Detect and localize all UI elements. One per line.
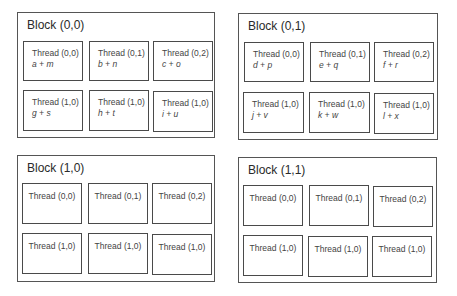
thread-0-1: Thread (0,1) (309, 185, 369, 226)
thread-operation: l + x (383, 111, 399, 121)
thread-operation: i + u (162, 109, 178, 119)
thread-0-0: Thread (0,0) (243, 185, 303, 226)
thread-label: Thread (1,0) (153, 242, 211, 252)
thread-label: Thread (1,0) (309, 244, 367, 254)
thread-0-0: Thread (0,0) (22, 183, 82, 224)
block-title: Block (1,0) (27, 161, 84, 175)
thread-operation: g + s (32, 108, 51, 118)
thread-operation: h + t (98, 108, 115, 118)
thread-operation: d + p (253, 60, 272, 70)
thread-label: Thread (1,0) (244, 243, 302, 253)
thread-1-2: Thread (1,0) i + u (153, 91, 213, 132)
block-title: Block (0,1) (248, 19, 305, 33)
thread-1-2: Thread (1,0) (372, 236, 432, 277)
thread-label: Thread (1,0) (373, 244, 431, 254)
thread-0-1: Thread (0,1) e + q (310, 42, 370, 82)
thread-label: Thread (1,0) (383, 100, 430, 110)
thread-operation: a + m (32, 59, 54, 69)
thread-label: Thread (0,1) (98, 48, 145, 58)
block-title: Block (0,0) (27, 18, 84, 32)
thread-label: Thread (0,1) (310, 193, 368, 203)
thread-operation: k + w (318, 110, 338, 120)
thread-1-2: Thread (1,0) (152, 234, 212, 275)
thread-label: Thread (0,0) (32, 48, 79, 58)
thread-label: Thread (1,0) (98, 97, 145, 107)
block-title: Block (1,1) (248, 163, 305, 177)
thread-label: Thread (0,2) (162, 48, 209, 58)
block-0-0: Block (0,0) Thread (0,0) a + m Thread (0… (17, 12, 215, 138)
thread-0-1: Thread (0,1) (88, 183, 148, 224)
thread-1-1: Thread (1,0) h + t (89, 90, 149, 131)
thread-label: Thread (0,1) (89, 191, 147, 201)
block-0-1: Block (0,1) Thread (0,0) d + p Thread (0… (238, 13, 438, 140)
thread-1-2: Thread (1,0) l + x (374, 93, 434, 134)
thread-0-2: Thread (0,2) f + r (374, 42, 434, 82)
block-1-1: Block (1,1) Thread (0,0) Thread (0,1) Th… (238, 157, 437, 283)
thread-label: Thread (1,0) (318, 99, 365, 109)
thread-1-0: Thread (1,0) j + v (243, 92, 304, 133)
thread-operation: b + n (98, 59, 117, 69)
thread-operation: f + r (383, 60, 398, 70)
thread-label: Thread (0,2) (374, 194, 432, 204)
thread-label: Thread (1,0) (89, 241, 147, 251)
thread-label: Thread (0,0) (244, 193, 302, 203)
thread-0-2: Thread (0,2) (152, 183, 212, 224)
thread-label: Thread (1,0) (162, 98, 209, 108)
thread-label: Thread (0,1) (319, 49, 366, 59)
thread-0-2: Thread (0,2) (373, 186, 433, 227)
thread-0-0: Thread (0,0) a + m (23, 41, 83, 81)
thread-label: Thread (0,2) (383, 49, 430, 59)
thread-1-1: Thread (1,0) (88, 233, 148, 274)
thread-label: Thread (0,2) (153, 191, 211, 201)
thread-operation: e + q (319, 60, 338, 70)
thread-0-2: Thread (0,2) c + o (153, 41, 213, 81)
thread-1-0: Thread (1,0) g + s (23, 90, 83, 131)
thread-label: Thread (1,0) (23, 241, 81, 251)
thread-1-0: Thread (1,0) (243, 235, 303, 276)
thread-label: Thread (1,0) (252, 99, 299, 109)
thread-operation: j + v (252, 110, 268, 120)
thread-label: Thread (0,0) (23, 191, 81, 201)
thread-0-1: Thread (0,1) b + n (89, 41, 149, 81)
thread-operation: c + o (162, 59, 181, 69)
thread-1-1: Thread (1,0) (308, 236, 368, 277)
thread-1-0: Thread (1,0) (22, 233, 82, 274)
block-1-0: Block (1,0) Thread (0,0) Thread (0,1) Th… (17, 155, 215, 282)
thread-label: Thread (0,0) (253, 49, 300, 59)
thread-label: Thread (1,0) (32, 97, 79, 107)
thread-0-0: Thread (0,0) d + p (244, 42, 304, 82)
thread-1-1: Thread (1,0) k + w (309, 92, 370, 133)
